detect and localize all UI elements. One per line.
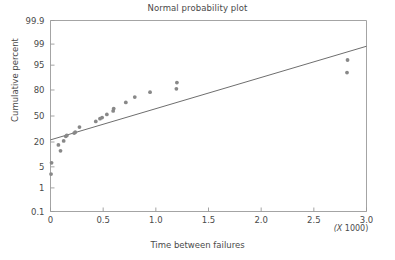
data-point	[78, 125, 82, 129]
y-tick-label: 99.9	[26, 16, 45, 26]
data-point	[100, 116, 104, 120]
x-tick-label: 3.0	[360, 215, 374, 225]
y-tick-label: 50	[34, 111, 45, 121]
plot-svg: 99.99995805020510.1 00.51.01.52.02.53.0	[0, 0, 395, 260]
y-tick-label: 0.1	[31, 207, 45, 217]
y-tick-label: 99	[34, 39, 45, 49]
data-point	[112, 107, 116, 111]
data-point	[133, 95, 137, 99]
data-point	[50, 161, 54, 165]
fit-line-segment	[51, 46, 367, 140]
data-point	[62, 139, 66, 143]
data-point	[49, 172, 53, 176]
data-point	[105, 113, 109, 117]
data-point	[175, 81, 179, 85]
data-point	[345, 71, 349, 75]
fit-line	[51, 46, 367, 140]
y-tick-label: 80	[34, 85, 45, 95]
data-point	[73, 130, 77, 134]
chart-canvas: Normal probability plot Cumulative perce…	[0, 0, 395, 260]
data-points	[49, 58, 349, 176]
x-tick-label: 2.5	[307, 215, 321, 225]
data-point	[124, 101, 128, 105]
x-tick-label: 2.0	[254, 215, 268, 225]
y-tick-label: 5	[39, 162, 44, 172]
x-tick-label: 0	[48, 215, 53, 225]
y-tick-label: 20	[34, 137, 45, 147]
data-point	[59, 149, 63, 153]
x-tick-label: 1.0	[149, 215, 163, 225]
x-axis-ticks: 00.51.01.52.02.53.0	[48, 208, 373, 225]
data-point	[346, 58, 350, 62]
y-tick-label: 1	[39, 183, 44, 193]
data-point	[174, 87, 178, 91]
plot-frame	[51, 21, 367, 212]
data-point	[94, 120, 98, 124]
data-point	[57, 143, 61, 147]
data-point	[65, 134, 69, 138]
x-tick-label: 1.5	[202, 215, 216, 225]
data-point	[148, 90, 152, 94]
y-tick-label: 95	[34, 60, 45, 70]
x-tick-label: 0.5	[96, 215, 110, 225]
